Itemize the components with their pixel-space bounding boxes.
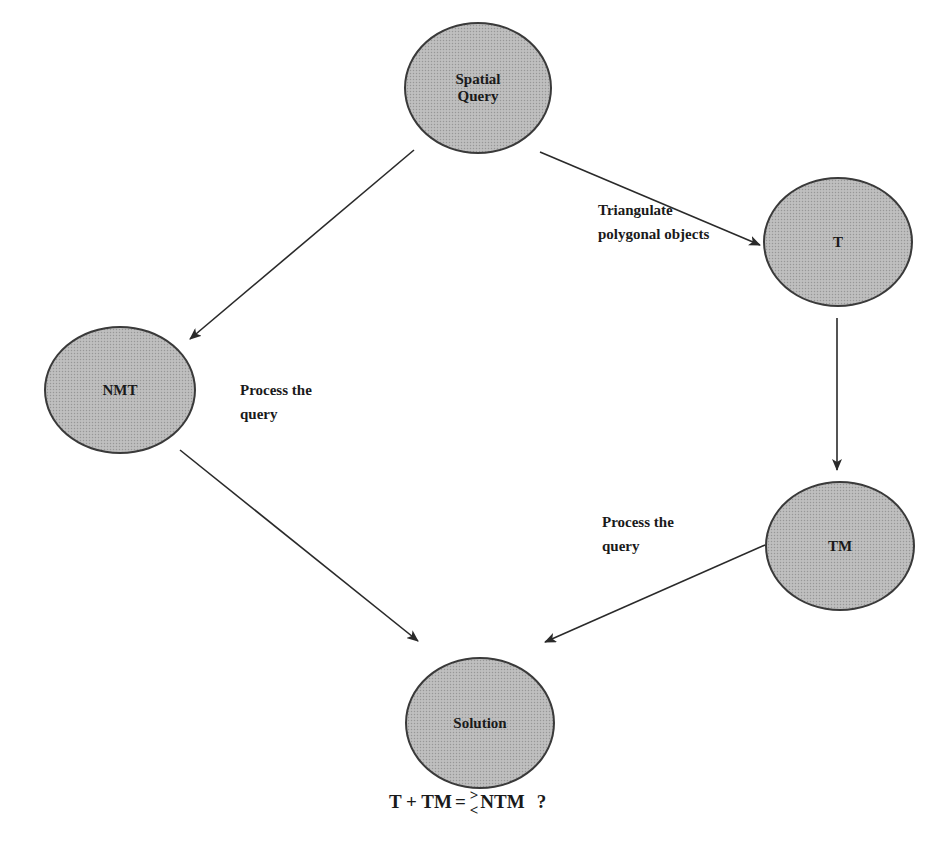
node-spatial-query-label: Spatial Query	[455, 71, 500, 105]
greater-than-symbol: >	[470, 791, 479, 800]
node-nmt-label: NMT	[103, 382, 138, 399]
less-than-symbol: <	[470, 806, 479, 815]
edge-label-triangulate: Triangulate polygonal objects	[598, 198, 709, 246]
arrow-nmt-to-solution	[180, 450, 418, 641]
node-t: T	[763, 177, 913, 307]
node-nmt: NMT	[44, 326, 196, 454]
node-spatial-query: Spatial Query	[404, 22, 552, 154]
equation-rhs: NTM	[480, 791, 524, 813]
equation-equals: =	[455, 791, 466, 813]
comparison-equation: T + TM = > < NTM ?	[386, 790, 549, 814]
node-tm-label: TM	[828, 538, 852, 555]
equation-lhs: T + TM	[389, 791, 452, 813]
equation-question-mark: ?	[537, 791, 547, 813]
diagram-canvas: Spatial Query T NMT TM Solution Triangul…	[0, 0, 947, 846]
node-solution: Solution	[405, 657, 555, 789]
node-tm: TM	[765, 481, 915, 611]
edge-label-process-query-nmt: Process the query	[240, 378, 312, 426]
equation-relation-stack: > <	[470, 791, 479, 815]
arrow-spatial-query-to-nmt	[190, 150, 414, 339]
edge-label-process-query-tm: Process the query	[602, 510, 674, 558]
arrow-tm-to-solution	[545, 545, 765, 642]
node-t-label: T	[833, 234, 843, 251]
node-solution-label: Solution	[453, 715, 506, 732]
